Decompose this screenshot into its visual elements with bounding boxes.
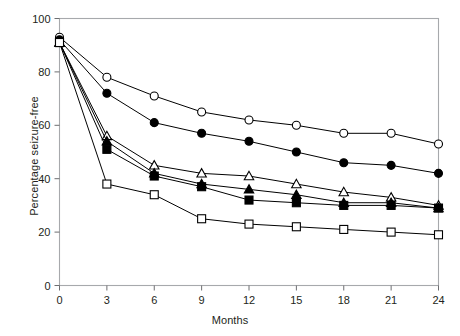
data-point-marker (103, 73, 111, 81)
data-point-marker (245, 196, 253, 204)
data-point-marker (103, 145, 111, 153)
data-point-marker (435, 204, 443, 212)
data-point-marker (245, 137, 253, 145)
data-point-marker (292, 148, 300, 156)
x-tick-label: 0 (56, 294, 62, 306)
data-point-marker (292, 199, 300, 207)
data-point-marker (150, 119, 158, 127)
x-axis-title: Months (0, 314, 460, 326)
data-point-marker (292, 223, 300, 231)
data-point-marker (150, 172, 158, 180)
series-line (60, 37, 439, 144)
data-point-marker (103, 89, 111, 97)
data-point-marker (56, 39, 64, 47)
data-point-marker (387, 228, 395, 236)
data-point-marker (150, 191, 158, 199)
axis-ticks (55, 19, 439, 291)
y-tick-label: 0 (44, 280, 50, 292)
data-point-marker (198, 183, 206, 191)
y-tick-label: 100 (32, 13, 50, 25)
data-point-marker (387, 161, 395, 169)
series-line (60, 40, 439, 174)
data-point-marker (387, 129, 395, 137)
data-series-group (55, 33, 443, 239)
data-point-marker (198, 129, 206, 137)
x-tick-label: 18 (338, 294, 350, 306)
y-tick-label: 80 (38, 66, 50, 78)
plot-frame (60, 19, 439, 286)
axis-tick-labels: 02040608010003691215182124 (32, 13, 444, 306)
series-line (60, 43, 439, 209)
x-tick-label: 3 (104, 294, 110, 306)
data-point-marker (150, 92, 158, 100)
data-point-marker (198, 108, 206, 116)
x-tick-label: 6 (151, 294, 157, 306)
y-tick-label: 40 (38, 173, 50, 185)
y-tick-label: 60 (38, 119, 50, 131)
data-point-marker (292, 121, 300, 129)
data-point-marker (103, 180, 111, 188)
data-point-marker (340, 159, 348, 167)
series-filled-circle (56, 36, 443, 178)
data-point-marker (340, 225, 348, 233)
series-line (60, 43, 439, 209)
data-point-marker (435, 169, 443, 177)
x-tick-label: 15 (290, 294, 302, 306)
chart-container: 02040608010003691215182124 Percentage se… (0, 0, 460, 336)
series-open-circle (56, 33, 443, 148)
x-tick-label: 21 (385, 294, 397, 306)
data-point-marker (245, 116, 253, 124)
x-tick-label: 12 (243, 294, 255, 306)
data-point-marker (245, 220, 253, 228)
x-tick-label: 24 (432, 294, 444, 306)
data-point-marker (435, 231, 443, 239)
y-axis-title: Percentage seizure-free (28, 61, 40, 251)
data-point-marker (435, 140, 443, 148)
seizure-free-line-chart: 02040608010003691215182124 (0, 0, 460, 336)
data-point-marker (387, 201, 395, 209)
y-tick-label: 20 (38, 226, 50, 238)
data-point-marker (340, 129, 348, 137)
x-tick-label: 9 (199, 294, 205, 306)
data-point-marker (198, 215, 206, 223)
data-point-marker (340, 201, 348, 209)
